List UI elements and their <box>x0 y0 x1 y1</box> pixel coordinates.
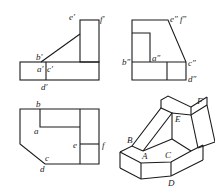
label-b-side: b″ <box>122 57 131 67</box>
iso-base-top-front <box>120 145 203 163</box>
label-d-top: d <box>40 164 45 174</box>
label-a-front: a′ <box>37 64 45 74</box>
iso-inner-floor-edge <box>172 139 191 151</box>
label-f-front: f′ <box>100 14 106 24</box>
front-slope-line <box>41 34 80 62</box>
label-e-front: e′ <box>69 12 76 22</box>
label-F-iso: F <box>196 96 203 106</box>
label-b-top: b <box>36 99 41 109</box>
top-inner-step <box>40 109 80 127</box>
iso-upright-front-right <box>207 105 215 142</box>
label-f-top: f <box>102 140 106 150</box>
side-outline <box>132 20 186 80</box>
iso-rib-left <box>132 108 172 151</box>
iso-upright-front-left <box>191 115 198 148</box>
label-C-iso: C <box>165 150 172 160</box>
label-a-top: a <box>34 126 39 136</box>
front-view: e′ f′ b′ a′ c′ d′ <box>20 12 106 92</box>
label-e-top: e <box>73 140 77 150</box>
side-inner-rect <box>132 33 150 62</box>
label-ef-side: e″ f″ <box>170 14 186 24</box>
label-d-front: d′ <box>41 82 49 92</box>
iso-upright-top <box>161 96 191 115</box>
top-outline <box>20 109 99 164</box>
label-c-front: c′ <box>47 64 54 74</box>
technical-drawing: e′ f′ b′ a′ c′ d′ e″ f″ b″ a″ c″ d″ b a … <box>0 0 215 194</box>
front-base-rect <box>20 62 99 80</box>
iso-base-top-left <box>120 146 143 152</box>
label-E-iso: E <box>174 114 181 124</box>
top-view: b a e f c d <box>20 99 106 174</box>
side-view: e″ f″ b″ a″ c″ d″ <box>122 14 197 84</box>
front-upright-rect <box>80 20 99 62</box>
label-B-iso: B <box>127 135 133 145</box>
iso-upright-front-bottom <box>198 142 215 148</box>
label-c-side: c″ <box>188 58 196 68</box>
label-A-iso: A <box>141 151 148 161</box>
label-D-iso: D <box>167 178 175 188</box>
label-c-top: c <box>45 153 49 163</box>
label-a-side: a″ <box>152 53 161 63</box>
isometric-view: B A C D E F <box>120 96 215 188</box>
label-d-side: d″ <box>188 74 197 84</box>
label-b-front: b′ <box>36 52 44 62</box>
